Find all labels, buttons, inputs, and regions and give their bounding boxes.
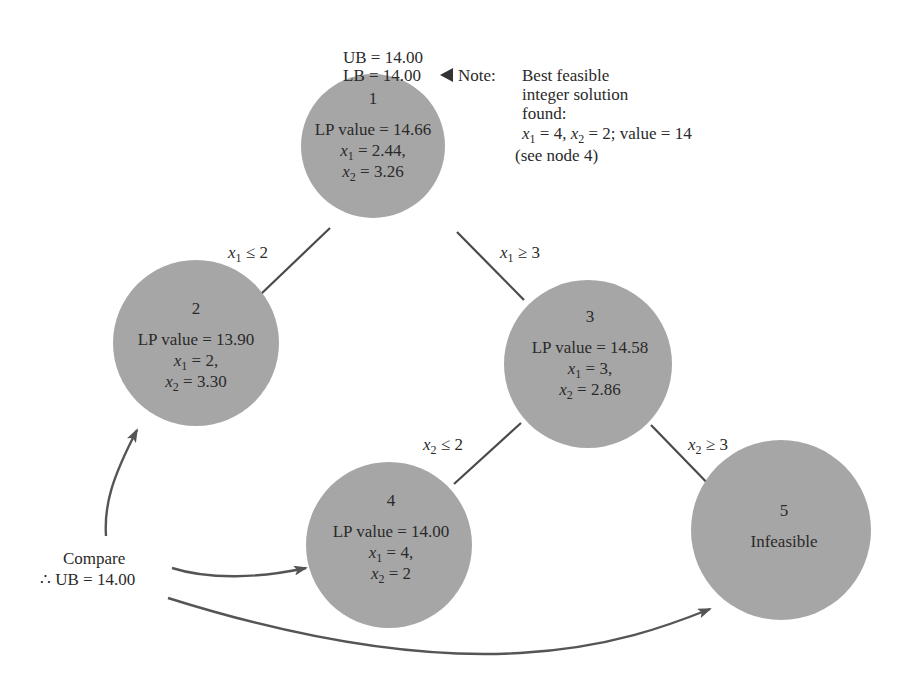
node-4-id: 4 [333,490,450,511]
edge-1-2 [261,228,330,294]
pointer-triangle-icon [440,68,453,82]
node-3-lp-value: LP value = 14.58 [532,337,649,358]
compare-ub-label: ∴ UB = 14.00 [40,570,135,590]
node-1-x2: x2 = 3.26 [315,161,432,182]
node-1-id: 1 [315,88,432,109]
node-2: 2 LP value = 13.90 x1 = 2, x2 = 3.30 [138,298,255,392]
node-3-x1: x1 = 3, [532,358,649,379]
edge-3-4 [454,423,521,484]
note-x2-val: = 2; value = 14 [584,124,691,143]
note-reference: (see node 4) [515,146,598,166]
node-3-id: 3 [532,306,649,327]
node-2-id: 2 [138,298,255,319]
note-line-1: Best feasible [522,66,609,86]
node-4-x2: x2 = 2 [333,563,450,584]
node-2-x1: x1 = 2, [138,350,255,371]
node-4-x1: x1 = 4, [333,542,450,563]
node-2-lp-value: LP value = 13.90 [138,329,255,350]
node-3: 3 LP value = 14.58 x1 = 3, x2 = 2.86 [532,306,649,400]
node-2-x2: x2 = 3.30 [138,371,255,392]
node-5-id: 5 [750,500,817,521]
note-label: Note: [458,66,496,86]
compare-label: Compare [63,549,125,569]
node-4: 4 LP value = 14.00 x1 = 4, x2 = 2 [333,490,450,584]
lower-bound-label: LB = 14.00 [343,66,421,86]
tree-graphic [0,0,910,679]
compare-arrow-to-node-2 [106,430,137,536]
branch-label-3-5: x2 ≥ 3 [688,435,728,455]
node-1-lp-value: LP value = 14.66 [315,119,432,140]
note-x1-val: = 4, [536,124,571,143]
branch-label-1-3: x1 ≥ 3 [500,243,540,263]
node-1: 1 LP value = 14.66 x1 = 2.44, x2 = 3.26 [315,88,432,182]
node-3-x2: x2 = 2.86 [532,379,649,400]
branch-label-1-2: x1 ≤ 2 [228,243,268,263]
note-line-3: found: [522,104,566,124]
note-solution: x1 = 4, x2 = 2; value = 14 [522,124,692,144]
note-line-2: integer solution [522,85,628,105]
compare-arrow-to-node-4 [172,568,306,576]
node-4-lp-value: LP value = 14.00 [333,521,450,542]
node-5: 5 Infeasible [750,500,817,552]
note-x1-var: x [522,124,530,143]
node-1-x1: x1 = 2.44, [315,140,432,161]
node-5-status: Infeasible [750,531,817,552]
branch-label-3-4: x2 ≤ 2 [423,435,463,455]
upper-bound-label: UB = 14.00 [343,48,423,68]
